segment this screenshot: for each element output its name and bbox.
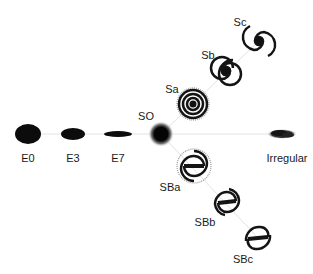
galaxy-irregular-icon xyxy=(267,129,297,139)
label-sb: Sb xyxy=(201,50,214,61)
label-s0: SO xyxy=(138,111,154,122)
label-irregular: Irregular xyxy=(267,153,308,164)
galaxy-sba-icon xyxy=(177,149,211,183)
galaxy-sbc-icon xyxy=(246,227,270,249)
label-sbc: SBc xyxy=(233,254,253,265)
galaxy-e7-icon xyxy=(104,131,132,137)
label-e0: E0 xyxy=(21,153,34,164)
label-sc: Sc xyxy=(234,17,247,28)
diagram-canvas xyxy=(0,0,313,274)
label-e3: E3 xyxy=(66,153,79,164)
galaxy-s0-icon xyxy=(148,121,174,147)
galaxy-sb-icon xyxy=(211,57,241,85)
label-sa: Sa xyxy=(165,84,178,95)
galaxy-e3-icon xyxy=(61,128,85,140)
label-sbb: SBb xyxy=(195,217,216,228)
label-sba: SBa xyxy=(160,182,181,193)
galaxy-e0-icon xyxy=(15,124,41,144)
hubble-tuning-fork-diagram: E0 E3 E7 SO Sa Sb Sc SBa SBb SBc Irregul… xyxy=(0,0,313,274)
label-e7: E7 xyxy=(111,153,124,164)
galaxy-sbb-icon xyxy=(215,189,239,215)
